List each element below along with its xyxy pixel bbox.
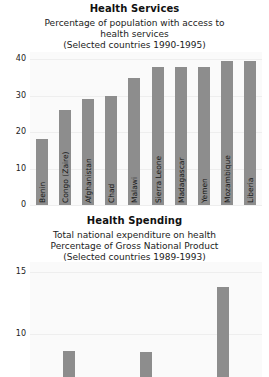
bar-category-label: Congo (Zaire) [62, 151, 70, 203]
bar [217, 287, 229, 377]
chart1-subtitle-line-1: Percentage of population with access to [0, 18, 269, 29]
y-axis-tick-label: 30 [16, 92, 26, 100]
bar-category-label: Liberia [247, 178, 255, 203]
chart1-subtitle: Percentage of population with access to … [0, 18, 269, 51]
bar [140, 352, 152, 377]
chart1-subtitle-line-2: health services [0, 29, 269, 40]
bar-category-label: Benin [39, 182, 47, 203]
y-axis-tick-label: 20 [16, 128, 26, 136]
chart2-plot-area: 1015 [30, 262, 262, 377]
bar-category-label: Mozambique [224, 155, 232, 203]
figure-page: Health Services Percentage of population… [0, 0, 269, 377]
y-axis-tick-label: 0 [21, 201, 26, 209]
bar-category-label: Madagascar [178, 158, 186, 204]
chart2-subtitle-line-1: Total national expenditure on health [0, 230, 269, 241]
chart1-title: Health Services [0, 3, 269, 15]
bar-category-label: Afghanistan [85, 158, 93, 203]
y-axis-tick-label: 10 [16, 330, 26, 338]
chart1-plot-area: 010203040BeninCongo (Zaire)AfghanistanCh… [30, 52, 262, 205]
gridline [30, 272, 262, 273]
bar-category-label: Chad [108, 184, 116, 203]
y-axis-tick-label: 15 [16, 268, 26, 276]
bar-category-label: Yemen [201, 178, 209, 203]
health-spending-figure: Health Spending Total national expenditu… [0, 210, 269, 377]
bar-category-label: Sierra Leone [155, 156, 163, 203]
chart2-subtitle: Total national expenditure on health Per… [0, 230, 269, 263]
chart2-title: Health Spending [0, 215, 269, 227]
y-axis-tick-label: 10 [16, 165, 26, 173]
chart2-subtitle-line-2: Percentage of Gross National Product [0, 241, 269, 252]
bar [63, 351, 75, 377]
health-services-figure: Health Services Percentage of population… [0, 0, 269, 210]
bar-category-label: Malawi [131, 177, 139, 203]
y-axis-tick-label: 40 [16, 55, 26, 63]
gridline [30, 205, 262, 206]
chart1-subtitle-line-3: (Selected countries 1990-1995) [0, 40, 269, 51]
